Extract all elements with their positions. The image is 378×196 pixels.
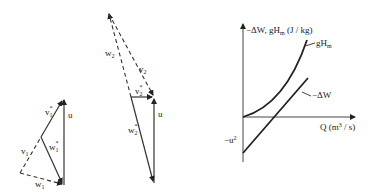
- label-v2-star: v2*: [135, 84, 143, 97]
- label-w1: w1: [35, 179, 45, 190]
- v2-vector: [109, 14, 153, 95]
- outlet-velocity-triangle: [109, 14, 154, 183]
- gHm-curve: [243, 40, 307, 117]
- label-u-inlet: u: [68, 110, 73, 120]
- label-w2-star: w2*: [128, 123, 138, 136]
- w2-star-vector: [131, 97, 153, 181]
- label-v1-star: v1*: [45, 105, 53, 118]
- delta-w-line: [243, 78, 308, 153]
- delta-w-leader: [302, 92, 311, 96]
- label-v1: v1: [21, 146, 29, 157]
- delta-w-curve-label: −ΔW: [312, 90, 332, 100]
- y-intercept-label: −u2: [224, 135, 237, 145]
- velocity-triangles-diagram: v1* u v1 w1* w1 w2 v2 v2* u w2* −ΔW, gHm…: [0, 0, 378, 196]
- label-w2: w2: [105, 48, 115, 59]
- label-u-outlet: u: [158, 109, 163, 119]
- y-axis-label: −ΔW, gHm (J / kg): [246, 25, 312, 36]
- label-w1-star: w1*: [49, 140, 59, 153]
- label-v2: v2: [139, 64, 147, 75]
- gHm-curve-label: gHm: [316, 38, 332, 49]
- performance-chart: [243, 24, 355, 162]
- x-axis-label: Q (m3 / s): [320, 122, 355, 132]
